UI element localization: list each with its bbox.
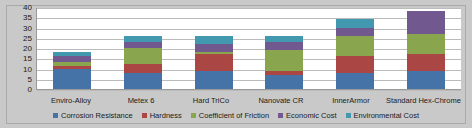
y-axis-tick-15: 15 (23, 55, 32, 63)
y-axis-tick-0: 0 (28, 86, 32, 94)
bar-column[interactable] (320, 8, 391, 89)
bar-column[interactable] (249, 8, 320, 89)
bar-column[interactable] (178, 8, 249, 89)
bar-column[interactable] (390, 8, 461, 89)
legend-label: Coefficient of Friction (199, 111, 269, 120)
bar-segment[interactable] (195, 36, 233, 44)
legend-label: Corrosion Resistance (61, 111, 133, 120)
legend-item[interactable]: Hardness (142, 111, 182, 120)
bar-segment[interactable] (336, 73, 374, 89)
bar-segment[interactable] (124, 48, 162, 64)
legend-label: Economic Cost (286, 111, 336, 120)
stacked-bar-chart: 4035302520151050 Enviro-AlloyMetex 6Hard… (0, 0, 472, 128)
bar-segment[interactable] (407, 34, 445, 55)
legend-item[interactable]: Corrosion Resistance (53, 111, 133, 120)
chart-legend: Corrosion ResistanceHardnessCoefficient … (7, 108, 465, 122)
y-axis-tick-30: 30 (23, 25, 32, 33)
stacked-bar[interactable] (407, 11, 445, 89)
gridline-0 (37, 90, 461, 91)
bar-segment[interactable] (195, 71, 233, 89)
y-axis-tick-10: 10 (23, 66, 32, 74)
stacked-bar[interactable] (195, 36, 233, 89)
stacked-bar[interactable] (336, 19, 374, 89)
bar-segment[interactable] (265, 75, 303, 89)
bar-segment[interactable] (336, 19, 374, 27)
bar-segment[interactable] (407, 11, 445, 34)
plot-area (36, 8, 461, 90)
bar-segment[interactable] (195, 54, 233, 70)
bar-column[interactable] (108, 8, 179, 89)
bar-segment[interactable] (336, 28, 374, 36)
legend-swatch-icon (346, 113, 351, 118)
plot-area-wrapper: 4035302520151050 Enviro-AlloyMetex 6Hard… (7, 8, 463, 94)
bar-segment[interactable] (336, 36, 374, 57)
bar-segment[interactable] (195, 44, 233, 52)
bar-column[interactable] (37, 8, 108, 89)
stacked-bar[interactable] (53, 52, 91, 89)
chart-frame: 4035302520151050 Enviro-AlloyMetex 6Hard… (6, 5, 466, 124)
bar-segment[interactable] (407, 71, 445, 89)
legend-item[interactable]: Environmental Cost (346, 111, 419, 120)
y-axis-tick-20: 20 (23, 45, 32, 53)
y-axis-tick-25: 25 (23, 35, 32, 43)
bar-segment[interactable] (407, 54, 445, 70)
bar-segment[interactable] (265, 42, 303, 50)
y-axis-tick-40: 40 (23, 4, 32, 12)
legend-item[interactable]: Coefficient of Friction (191, 111, 269, 120)
stacked-bar[interactable] (124, 36, 162, 89)
legend-label: Hardness (150, 111, 182, 120)
bar-segment[interactable] (124, 64, 162, 72)
stacked-bar[interactable] (265, 36, 303, 89)
y-axis: 4035302520151050 (7, 8, 35, 90)
legend-label: Environmental Cost (354, 111, 419, 120)
legend-item[interactable]: Economic Cost (278, 111, 336, 120)
bar-segment[interactable] (265, 50, 303, 71)
y-axis-tick-5: 5 (28, 76, 32, 84)
bar-segment[interactable] (124, 73, 162, 89)
bar-segment[interactable] (336, 56, 374, 72)
legend-swatch-icon (191, 113, 196, 118)
legend-swatch-icon (142, 113, 147, 118)
legend-swatch-icon (53, 113, 58, 118)
y-axis-tick-35: 35 (23, 14, 32, 22)
legend-swatch-icon (278, 113, 283, 118)
bars-layer (37, 8, 461, 89)
bar-segment[interactable] (53, 69, 91, 90)
